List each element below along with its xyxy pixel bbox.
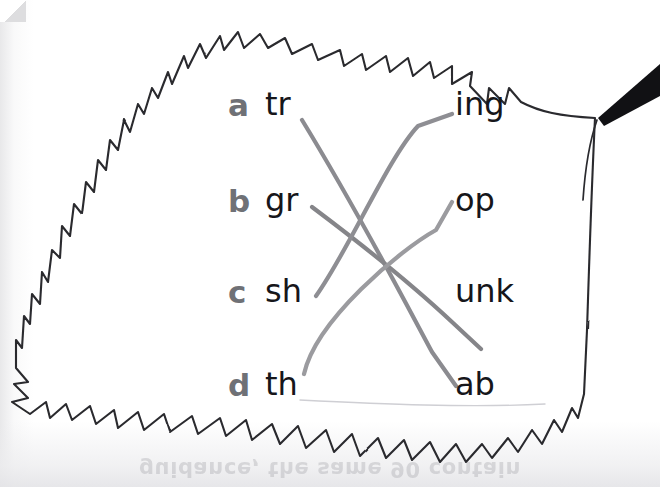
left-word-c[interactable]: sh: [265, 275, 302, 307]
match-line-tr-to-ab[interactable]: [302, 120, 456, 386]
matching-lines-group: [302, 114, 481, 386]
left-word-b[interactable]: gr: [265, 184, 298, 216]
right-word-a[interactable]: ing: [455, 88, 504, 120]
page-corner-fold: [0, 0, 26, 22]
row-key-b: b: [228, 186, 250, 217]
match-line-th-to-op[interactable]: [304, 202, 452, 374]
match-line-sh-to-ing[interactable]: [316, 114, 452, 296]
faint-guide-line: [300, 400, 545, 406]
leaf-stem: [598, 64, 660, 126]
paper-bottom-shadow: [0, 421, 660, 487]
leaf-outline: [12, 32, 595, 462]
leaf-midrib-stub: [583, 120, 597, 200]
worksheet-canvas: a tr ing b gr op c sh unk d th ab guidan…: [0, 0, 660, 487]
row-key-d: d: [228, 370, 250, 401]
leaf-illustration: [0, 0, 660, 487]
row-key-c: c: [228, 277, 246, 308]
page-bleedthrough-text: guidance, the same 90 contain: [0, 457, 660, 481]
left-word-d[interactable]: th: [265, 368, 298, 400]
paper-left-shadow: [0, 0, 660, 487]
right-word-d[interactable]: ab: [455, 368, 495, 400]
row-key-a: a: [228, 90, 249, 121]
right-word-b[interactable]: op: [455, 184, 495, 216]
left-word-a[interactable]: tr: [265, 88, 291, 120]
right-word-c[interactable]: unk: [455, 275, 514, 307]
